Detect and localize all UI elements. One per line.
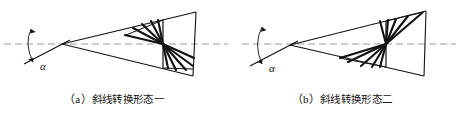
- angle-label-a: α: [40, 60, 46, 72]
- diagram-panel-b: α: [228, 0, 456, 92]
- diagram-a-canvas: α: [0, 0, 228, 92]
- fan-lower-chord-b: [340, 58, 386, 67]
- caption-b: （b） 斜线转换形态二: [228, 92, 456, 118]
- wedge-lower-edge-b: [290, 45, 424, 76]
- angle-arrow-top-a: [30, 29, 35, 34]
- angle-arc-b: [258, 27, 263, 64]
- wedge-upper-edge-a: [62, 12, 196, 44]
- caption-b-text: 斜线转换形态二: [320, 92, 392, 106]
- caption-a-text: 斜线转换形态一: [92, 92, 164, 106]
- diagram-b-canvas: α: [228, 0, 456, 92]
- caption-a-index: （a）: [64, 92, 92, 106]
- caption-b-index: （b）: [292, 92, 320, 106]
- figure-container: α: [0, 0, 456, 118]
- angle-label-b: α: [269, 62, 275, 74]
- caption-row: （a） 斜线转换形态一 （b） 斜线转换形态二: [0, 92, 456, 118]
- fan-lower-right-a: [163, 44, 194, 70]
- fan-upper-left-a: [125, 20, 163, 44]
- caption-a: （a） 斜线转换形态一: [0, 92, 228, 118]
- fan-lower-left-b: [340, 44, 386, 67]
- diagram-panel-a: α: [0, 0, 228, 92]
- angle-arc-a: [28, 29, 33, 62]
